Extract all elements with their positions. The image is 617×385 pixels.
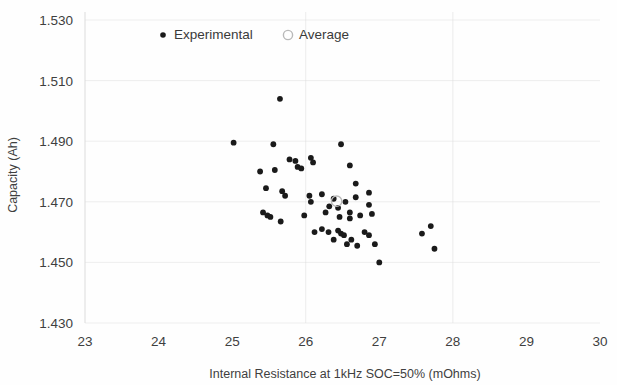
data-point-experimental bbox=[353, 181, 359, 187]
data-point-experimental bbox=[231, 140, 237, 146]
legend-label-experimental: Experimental bbox=[174, 27, 253, 42]
legend-label-average: Average bbox=[299, 27, 349, 42]
x-axis-title: Internal Resistance at 1kHz SOC=50% (mOh… bbox=[209, 367, 480, 381]
data-point-experimental bbox=[272, 167, 278, 173]
data-point-experimental bbox=[419, 231, 425, 237]
y-tick-label: 1.470 bbox=[39, 195, 73, 210]
data-point-experimental bbox=[257, 169, 263, 175]
axis-lines bbox=[85, 12, 453, 323]
data-point-experimental bbox=[298, 166, 304, 172]
data-point-experimental bbox=[341, 232, 347, 238]
legend: ExperimentalAverage bbox=[160, 27, 349, 42]
data-point-experimental bbox=[270, 141, 276, 147]
data-point-experimental bbox=[372, 241, 378, 247]
data-point-experimental bbox=[319, 226, 325, 232]
data-point-experimental bbox=[301, 213, 307, 219]
data-point-experimental bbox=[282, 193, 288, 199]
data-point-experimental bbox=[319, 191, 325, 197]
data-point-experimental bbox=[347, 216, 353, 222]
x-tick-label: 23 bbox=[77, 334, 92, 349]
x-tick-label: 25 bbox=[225, 334, 240, 349]
data-point-experimental bbox=[353, 194, 359, 200]
data-point-experimental bbox=[357, 213, 363, 219]
y-tick-label: 1.490 bbox=[39, 134, 73, 149]
gridlines bbox=[85, 20, 600, 323]
x-tick-label: 30 bbox=[592, 334, 607, 349]
data-point-experimental bbox=[347, 163, 353, 169]
data-point-experimental bbox=[278, 219, 284, 225]
data-point-experimental bbox=[263, 185, 269, 191]
data-point-experimental bbox=[344, 241, 350, 247]
data-point-experimental bbox=[369, 211, 375, 217]
x-tick-label: 27 bbox=[372, 334, 387, 349]
data-point-experimental bbox=[308, 199, 314, 205]
data-point-experimental bbox=[432, 246, 438, 252]
y-tick-label: 1.450 bbox=[39, 255, 73, 270]
data-point-experimental bbox=[338, 141, 344, 147]
data-point-experimental bbox=[293, 158, 299, 164]
data-point-experimental bbox=[323, 210, 329, 216]
data-point-experimental bbox=[366, 202, 372, 208]
y-tick-label: 1.510 bbox=[39, 74, 73, 89]
data-point-experimental bbox=[366, 232, 372, 238]
data-point-experimental bbox=[348, 237, 354, 243]
data-point-experimental bbox=[310, 160, 316, 166]
scatter-chart: 1.5301.5101.4901.4701.4501.430 232425262… bbox=[0, 0, 617, 385]
x-tick-label: 24 bbox=[151, 334, 167, 349]
data-points bbox=[231, 96, 438, 265]
data-point-experimental bbox=[366, 190, 372, 196]
x-tick-labels: 2324252627282930 bbox=[77, 334, 607, 349]
data-point-experimental bbox=[306, 193, 312, 199]
y-axis-title: Capacity (Ah) bbox=[6, 137, 20, 213]
legend-marker-experimental bbox=[160, 32, 166, 38]
data-point-experimental bbox=[287, 156, 293, 162]
data-point-experimental bbox=[343, 199, 349, 205]
legend-marker-average bbox=[283, 30, 292, 39]
chart-canvas: 1.5301.5101.4901.4701.4501.430 232425262… bbox=[0, 0, 617, 385]
data-point-experimental bbox=[347, 210, 353, 216]
x-tick-label: 26 bbox=[298, 334, 313, 349]
data-point-experimental bbox=[326, 203, 332, 209]
data-point-experimental bbox=[331, 237, 337, 243]
x-tick-label: 29 bbox=[519, 334, 534, 349]
data-point-experimental bbox=[277, 96, 283, 102]
data-point-experimental bbox=[312, 229, 318, 235]
data-point-experimental bbox=[428, 223, 434, 229]
data-point-experimental bbox=[326, 229, 332, 235]
data-point-experimental bbox=[337, 214, 343, 220]
data-point-experimental bbox=[376, 260, 382, 266]
series-experimental bbox=[231, 96, 438, 265]
y-tick-label: 1.530 bbox=[39, 13, 73, 28]
data-point-experimental bbox=[354, 243, 360, 249]
data-point-experimental bbox=[268, 214, 274, 220]
x-tick-label: 28 bbox=[445, 334, 460, 349]
y-tick-label: 1.430 bbox=[39, 316, 73, 331]
y-tick-labels: 1.5301.5101.4901.4701.4501.430 bbox=[39, 13, 73, 331]
